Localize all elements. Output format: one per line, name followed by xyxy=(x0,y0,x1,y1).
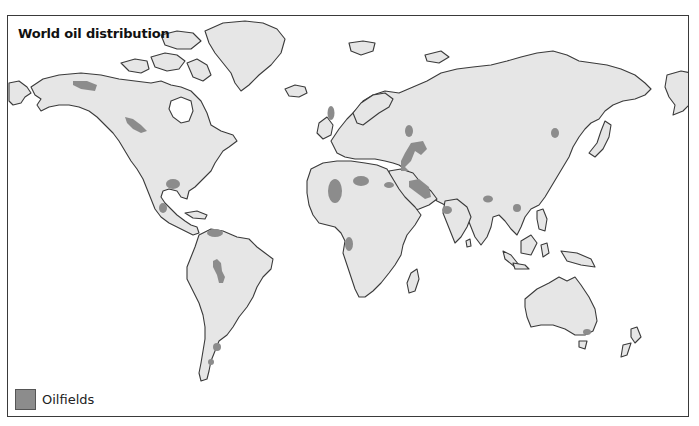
chukotka-left xyxy=(9,81,31,105)
oilfield-venezuela xyxy=(207,229,223,237)
oilfield-mexico xyxy=(159,203,167,213)
new-guinea xyxy=(561,251,595,267)
oilfield-north-sea xyxy=(328,106,335,120)
greenland xyxy=(205,21,285,91)
world-map xyxy=(7,15,689,417)
australia xyxy=(525,277,597,335)
arctic-islands-2 xyxy=(151,53,185,71)
oilfield-volga-urals xyxy=(405,125,413,137)
oilfield-southeast-asia xyxy=(513,204,521,212)
united-kingdom xyxy=(317,117,333,139)
map-title: World oil distribution xyxy=(18,26,169,41)
oilfield-tierra-del-fuego xyxy=(208,359,214,365)
madagascar xyxy=(407,269,419,293)
north-america xyxy=(31,73,237,235)
sri-lanka xyxy=(466,239,471,247)
sulawesi xyxy=(541,243,549,257)
oilfield-libya xyxy=(353,176,369,186)
oilfield-legend-swatch xyxy=(15,389,36,410)
oilfield-argentina xyxy=(213,343,221,351)
svalbard xyxy=(349,41,375,55)
map-legend: Oilfields xyxy=(15,389,94,410)
java xyxy=(513,263,529,269)
oilfield-us-gulf xyxy=(166,179,180,189)
philippines xyxy=(537,209,547,231)
alaska-right xyxy=(665,71,689,115)
oilfield-bombay-high xyxy=(442,206,452,214)
oilfield-egypt xyxy=(384,182,394,188)
new-zealand-south xyxy=(621,343,631,357)
japan xyxy=(589,121,611,157)
oilfield-legend-label: Oilfields xyxy=(42,392,94,407)
iceland xyxy=(285,85,307,97)
tasmania xyxy=(579,341,587,349)
oilfield-ne-china xyxy=(551,128,559,138)
new-zealand-north xyxy=(631,327,641,343)
cuba xyxy=(185,211,207,219)
map-frame: World oil distribution xyxy=(7,15,689,417)
borneo xyxy=(521,235,537,255)
south-america xyxy=(187,229,273,381)
arctic-islands-4 xyxy=(187,59,211,81)
oilfield-south-east-australia xyxy=(583,329,591,335)
arctic-islands-1 xyxy=(121,59,149,73)
oilfield-bengal-burma xyxy=(483,196,493,203)
novaya-zemlya xyxy=(425,51,449,63)
oilfield-nigeria xyxy=(345,237,353,251)
oilfield-algeria xyxy=(328,179,342,203)
